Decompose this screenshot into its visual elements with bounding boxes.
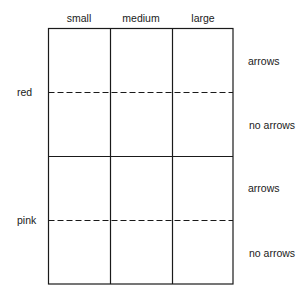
- design-grid: [0, 0, 307, 295]
